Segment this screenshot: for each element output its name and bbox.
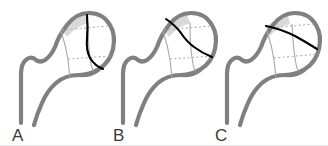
panel-a: A bbox=[12, 13, 114, 145]
figure-canvas: A B bbox=[0, 0, 328, 146]
panel-label-b: B bbox=[113, 126, 124, 145]
panel-c-bone bbox=[226, 13, 320, 125]
femur-fracture-figure: A B bbox=[0, 0, 328, 146]
panel-c: C bbox=[215, 13, 320, 145]
panel-b: B bbox=[113, 13, 216, 145]
panel-a-bone bbox=[20, 13, 114, 125]
panel-label-a: A bbox=[12, 126, 24, 145]
panel-label-c: C bbox=[215, 126, 227, 145]
panel-b-bone bbox=[122, 13, 216, 125]
